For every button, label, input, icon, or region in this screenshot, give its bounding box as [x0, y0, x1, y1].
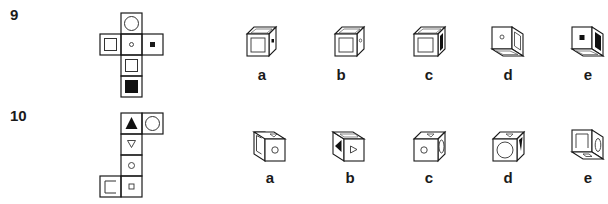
cube-net-9: [100, 12, 170, 102]
large-filled-square-icon: [125, 80, 138, 93]
option-cube-10e[interactable]: [571, 129, 605, 161]
option-cube-10b[interactable]: [332, 131, 366, 163]
option-label-10b: b: [340, 169, 360, 186]
option-cube-10c[interactable]: [413, 131, 447, 163]
option-label-10e: e: [578, 169, 598, 186]
cube-net-10: [100, 112, 170, 202]
outlined-square-icon: [105, 39, 117, 51]
filled-triangle-up-icon: [126, 117, 138, 129]
option-cube-9b[interactable]: [334, 26, 366, 58]
question-number-9: 9: [10, 6, 18, 23]
option-label-9d: d: [498, 66, 518, 83]
small-filled-square-icon: [272, 39, 275, 43]
option-cube-10d[interactable]: [492, 131, 526, 163]
outlined-triangle-down-icon: [128, 141, 136, 148]
option-label-10c: c: [419, 169, 439, 186]
option-cube-9e[interactable]: [571, 26, 605, 58]
large-circle-icon: [146, 117, 160, 131]
option-cube-9d[interactable]: [491, 26, 525, 58]
question-number-10: 10: [10, 107, 27, 124]
option-label-9c: c: [419, 66, 439, 83]
outlined-square-icon: [126, 60, 138, 72]
option-label-10d: d: [498, 169, 518, 186]
small-circle-icon: [130, 43, 134, 47]
small-filled-square-icon: [150, 42, 155, 47]
option-cube-10a[interactable]: [253, 131, 287, 163]
option-label-9e: e: [578, 66, 598, 83]
small-circle-icon: [129, 163, 135, 169]
option-cube-9c[interactable]: [413, 26, 447, 58]
option-label-9b: b: [331, 66, 351, 83]
small-filled-square-icon: [580, 35, 585, 40]
large-circle-icon: [125, 17, 139, 31]
large-filled-square-icon: [440, 33, 443, 51]
option-cube-9a[interactable]: [246, 26, 278, 58]
option-label-9a: a: [252, 66, 272, 83]
bracket-icon: [105, 181, 116, 193]
option-label-10a: a: [260, 169, 280, 186]
small-square-icon: [129, 184, 134, 189]
